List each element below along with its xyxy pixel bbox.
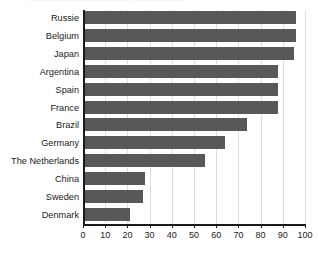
chart-screenshot: ···· ·· ····· ········· ··········· ··· … bbox=[0, 0, 318, 253]
bar bbox=[83, 154, 205, 167]
x-axis-tick-label: 80 bbox=[256, 230, 266, 240]
x-axis-tick bbox=[216, 224, 217, 228]
bar bbox=[83, 118, 247, 131]
x-axis-tick-label: 30 bbox=[145, 230, 155, 240]
category-label: France bbox=[1, 103, 79, 113]
category-label: China bbox=[1, 174, 79, 184]
bar bbox=[83, 65, 278, 78]
category-label: Japan bbox=[1, 49, 79, 59]
x-axis-tick bbox=[127, 224, 128, 228]
plot-area bbox=[83, 10, 305, 224]
bar bbox=[83, 47, 294, 60]
bar bbox=[83, 172, 145, 185]
category-label: Brazil bbox=[1, 120, 79, 130]
x-axis-tick-label: 90 bbox=[278, 230, 288, 240]
x-axis-tick-label: 60 bbox=[211, 230, 221, 240]
x-axis-tick-label: 70 bbox=[233, 230, 243, 240]
x-axis-tick bbox=[194, 224, 195, 228]
x-axis-tick bbox=[283, 224, 284, 228]
x-axis-tick bbox=[105, 224, 106, 228]
bar bbox=[83, 11, 296, 24]
category-axis-labels: RussieBelgiumJapanArgentinaSpainFranceBr… bbox=[0, 10, 79, 224]
x-axis-tick-label: 50 bbox=[189, 230, 199, 240]
x-axis-tick bbox=[150, 224, 151, 228]
x-axis-tick bbox=[83, 224, 84, 228]
x-axis-tick bbox=[261, 224, 262, 228]
x-axis-tick bbox=[305, 224, 306, 228]
bar bbox=[83, 136, 225, 149]
bar bbox=[83, 29, 296, 42]
x-axis-tick-label: 20 bbox=[122, 230, 132, 240]
category-label: Russie bbox=[1, 13, 79, 23]
x-axis-tick-label: 100 bbox=[297, 230, 312, 240]
category-label: Sweden bbox=[1, 192, 79, 202]
x-axis-tick-label: 10 bbox=[100, 230, 110, 240]
x-axis-tick bbox=[172, 224, 173, 228]
x-axis-tick-label: 40 bbox=[167, 230, 177, 240]
category-label: The Netherlands bbox=[1, 156, 79, 166]
category-label: Belgium bbox=[1, 31, 79, 41]
bar bbox=[83, 83, 278, 96]
category-label: Germany bbox=[1, 138, 79, 148]
x-axis-tick bbox=[238, 224, 239, 228]
gridline bbox=[305, 10, 306, 224]
category-label: Spain bbox=[1, 85, 79, 95]
horizontal-bar-chart: RussieBelgiumJapanArgentinaSpainFranceBr… bbox=[0, 0, 318, 253]
bar bbox=[83, 208, 130, 221]
category-label: Argentina bbox=[1, 67, 79, 77]
x-axis-tick-label: 0 bbox=[80, 230, 85, 240]
bar bbox=[83, 190, 143, 203]
bar bbox=[83, 101, 278, 114]
category-label: Denmark bbox=[1, 210, 79, 220]
y-axis-line bbox=[83, 10, 85, 224]
